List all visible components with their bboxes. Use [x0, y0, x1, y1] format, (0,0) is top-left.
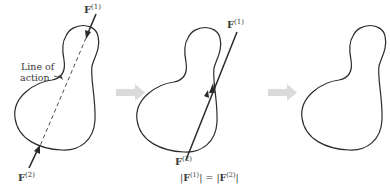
rigid-body-outline — [302, 26, 386, 151]
force-arrow-top-icon — [85, 14, 96, 39]
line-of-action-label-1: Line of — [21, 61, 56, 72]
line-of-action-solid — [186, 32, 237, 160]
right-arrow-icon — [116, 84, 145, 101]
force-2-label: F(2) — [18, 171, 35, 183]
line-of-action-label-2: action — [20, 72, 50, 83]
rigid-body-outline — [15, 26, 99, 151]
panel-2: F(1) F(2) |F(1)| = |F(2)| — [137, 18, 245, 184]
force-arrow-bottom-icon — [29, 145, 40, 168]
force-1-label: F(1) — [84, 3, 101, 15]
magnitude-equation: |F(1)| = |F(2)| — [180, 171, 239, 184]
force-diagram: Line of action F(1) F(2) F(1) F(2) |F(1)… — [0, 0, 390, 186]
rigid-body-outline — [137, 28, 221, 153]
panel-1: Line of action F(1) F(2) — [15, 3, 102, 183]
right-arrow-icon — [268, 84, 297, 101]
arrowhead-down-icon — [204, 90, 209, 98]
force-2-label: F(2) — [175, 155, 192, 167]
panel-3 — [302, 26, 386, 151]
force-1-label: F(1) — [227, 18, 244, 30]
